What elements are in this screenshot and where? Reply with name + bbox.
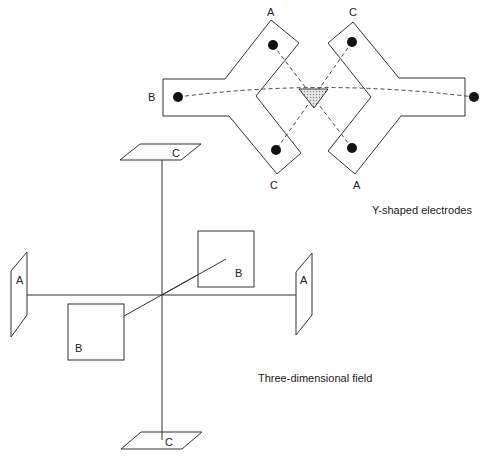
label-plate-back: B — [235, 267, 242, 279]
label-left-side: B — [148, 91, 155, 103]
electrode-dot-b-left — [173, 92, 183, 102]
label-right-side: B — [470, 91, 477, 103]
label-right-top: C — [349, 6, 357, 18]
label-right-bottom: A — [353, 179, 361, 191]
plate-a-right — [296, 253, 312, 335]
label-left-top: A — [267, 6, 275, 18]
electrode-dot-c-right — [347, 37, 357, 47]
label-plate-front: B — [75, 342, 82, 354]
label-plate-bottom: C — [165, 436, 173, 448]
caption-three-dimensional: Three-dimensional field — [258, 372, 372, 384]
electrode-dot-a-right — [347, 143, 357, 153]
plate-c-top — [120, 144, 201, 160]
label-left-bottom: C — [270, 179, 278, 191]
label-plate-top: C — [172, 147, 180, 159]
three-dimensional-field: C C A A B B Three-dimensional field — [11, 144, 372, 449]
plate-a-left — [11, 252, 27, 337]
caption-y-shaped: Y-shaped electrodes — [372, 204, 472, 216]
electrode-dot-a-left — [268, 40, 278, 50]
y-shaped-electrodes: A B C C B A Y-shaped electrodes — [148, 6, 479, 216]
diagram-canvas: A B C C B A Y-shaped electrodes C C A A … — [0, 0, 482, 456]
center-triangle-marker — [299, 89, 328, 108]
electrode-dot-c-left — [271, 145, 281, 155]
label-plate-left: A — [16, 274, 24, 286]
label-plate-right: A — [300, 274, 308, 286]
